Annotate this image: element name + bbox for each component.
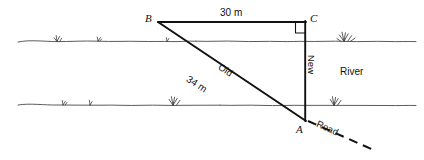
upper-river-bank <box>18 41 416 42</box>
river-triangle-diagram: B C A 30 m Old 34 m New Road River <box>0 0 424 160</box>
right-angle-marker-icon <box>296 23 306 34</box>
grass-tuft-icon <box>89 100 92 105</box>
grass-tuft-icon <box>166 38 169 42</box>
measure-label-30m: 30 m <box>220 8 242 18</box>
grass-tuft-icon <box>337 32 355 41</box>
lower-river-bank <box>18 104 416 105</box>
side-label-new: New <box>307 55 317 74</box>
grass-tuft-icon <box>97 37 101 41</box>
grass-tuft-icon <box>62 100 67 105</box>
grass-tuft-icon <box>330 97 341 106</box>
vertex-label-b: B <box>145 13 152 24</box>
grass-tuft-icon <box>169 97 180 106</box>
vertex-label-c: C <box>310 13 317 24</box>
diagram-canvas <box>0 0 424 160</box>
river-label: River <box>340 67 363 77</box>
vertex-label-a: A <box>296 124 303 135</box>
grass-tuft-icon <box>54 36 61 42</box>
